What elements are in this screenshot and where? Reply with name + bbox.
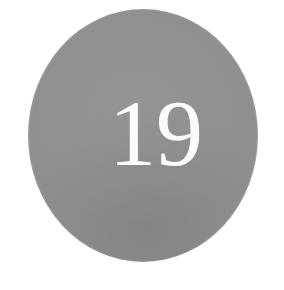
badge-number-label: 19	[0, 84, 284, 184]
page-canvas: 19	[0, 0, 284, 290]
